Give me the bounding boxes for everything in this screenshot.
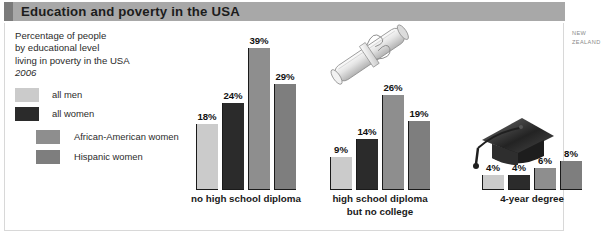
bar-0-3 bbox=[274, 84, 296, 190]
bar-body bbox=[534, 168, 556, 190]
bar-body bbox=[196, 124, 218, 190]
region-note-line-1: NEW bbox=[572, 29, 601, 38]
bar-chart-groups: 18%24%39%29%no high school diploma9%14%2… bbox=[0, 0, 604, 245]
bar-value-label-0-0: 18% bbox=[190, 111, 224, 122]
bar-2-1 bbox=[508, 175, 530, 190]
bar-0-0 bbox=[196, 124, 218, 190]
bar-value-label-1-1: 14% bbox=[350, 126, 384, 137]
bar-body bbox=[248, 48, 270, 190]
bar-value-label-1-3: 19% bbox=[402, 108, 436, 119]
bar-0-2 bbox=[248, 48, 270, 190]
bar-body bbox=[482, 175, 504, 190]
bar-body bbox=[222, 103, 244, 190]
bar-body bbox=[560, 161, 582, 190]
poverty-education-infographic: Education and poverty in the USA Percent… bbox=[0, 0, 604, 245]
bar-body bbox=[330, 157, 352, 190]
bar-value-label-1-2: 26% bbox=[376, 82, 410, 93]
group-label-2: 4-year degree bbox=[442, 193, 604, 206]
bar-2-3 bbox=[560, 161, 582, 190]
bar-group-1: 9%14%26%19% bbox=[330, 30, 430, 190]
bar-1-3 bbox=[408, 121, 430, 190]
bar-body bbox=[382, 95, 404, 190]
bar-body bbox=[356, 139, 378, 190]
bar-value-label-1-0: 9% bbox=[324, 144, 358, 155]
bar-value-label-0-2: 39% bbox=[242, 35, 276, 46]
bar-1-0 bbox=[330, 157, 352, 190]
bar-body bbox=[508, 175, 530, 190]
bar-body bbox=[408, 121, 430, 190]
bar-group-0: 18%24%39%29% bbox=[196, 30, 296, 190]
bar-value-label-2-3: 8% bbox=[554, 148, 588, 159]
region-note-line-2: ZEALAND bbox=[572, 38, 601, 47]
group-label-line-1: but no college bbox=[290, 206, 470, 219]
bar-value-label-0-1: 24% bbox=[216, 90, 250, 101]
bar-2-0 bbox=[482, 175, 504, 190]
bar-0-1 bbox=[222, 103, 244, 190]
group-label-line-0: 4-year degree bbox=[442, 193, 604, 206]
bar-2-2 bbox=[534, 168, 556, 190]
region-note: NEW ZEALAND bbox=[572, 29, 601, 47]
bar-1-2 bbox=[382, 95, 404, 190]
bar-value-label-0-3: 29% bbox=[268, 71, 302, 82]
bar-1-1 bbox=[356, 139, 378, 190]
bar-group-2: 4%4%6%8% bbox=[482, 30, 582, 190]
bar-body bbox=[274, 84, 296, 190]
